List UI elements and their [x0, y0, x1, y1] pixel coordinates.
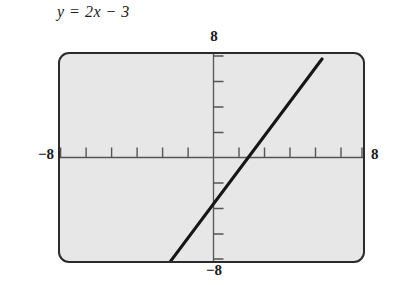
axis-label-right: 8	[371, 146, 395, 163]
plotted-line	[170, 59, 322, 262]
graph-figure: y = 2x − 3	[0, 0, 410, 285]
equation-caption: y = 2x − 3	[57, 3, 130, 21]
axis-label-bottom: −8	[193, 262, 235, 279]
coordinate-plane	[58, 52, 365, 263]
axis-label-left: −8	[20, 146, 54, 163]
x-axis-ticks	[61, 148, 362, 158]
axis-label-top: 8	[199, 28, 229, 45]
